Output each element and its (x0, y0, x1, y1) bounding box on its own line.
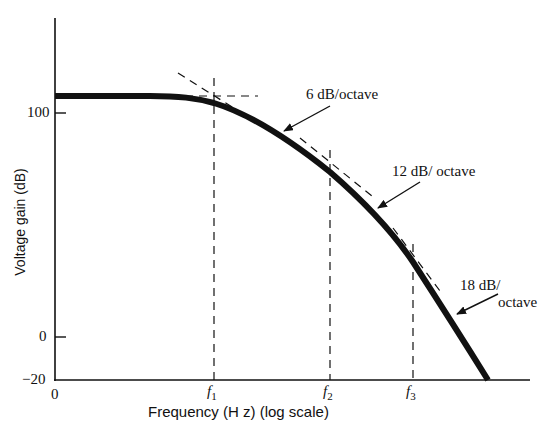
y-tick-label-0: 0 (39, 329, 47, 344)
annotation-18db-line1: 18 dB/ (460, 278, 500, 293)
plot-canvas (0, 0, 558, 430)
gain-curve (55, 96, 488, 380)
annotation-12db-octave: 12 dB/ octave (392, 164, 475, 179)
x-tick-label-f3: f3 (406, 384, 416, 402)
annotation-6db-octave: 6 dB/octave (306, 87, 378, 102)
y-tick-label-neg20: −20 (22, 372, 45, 387)
asymptote-18db (393, 228, 443, 295)
asymptote-12db (300, 138, 372, 196)
x-axis-title: Frequency (H z) (log scale) (148, 404, 329, 419)
arrow-12db (378, 182, 420, 208)
arrow-18db (457, 294, 498, 314)
annotation-18db-line2: octave (498, 295, 537, 310)
x-tick-label-0: 0 (51, 387, 59, 402)
x-tick-label-f1: f1 (207, 384, 217, 402)
arrow-6db (284, 106, 330, 131)
y-tick-label-100: 100 (27, 105, 50, 120)
y-axis-title: Voltage gain (dB) (13, 168, 27, 275)
bode-plot: 100 0 −20 0 f1 f2 f3 Frequency (H z) (lo… (0, 0, 558, 430)
x-tick-label-f2: f2 (323, 384, 333, 402)
